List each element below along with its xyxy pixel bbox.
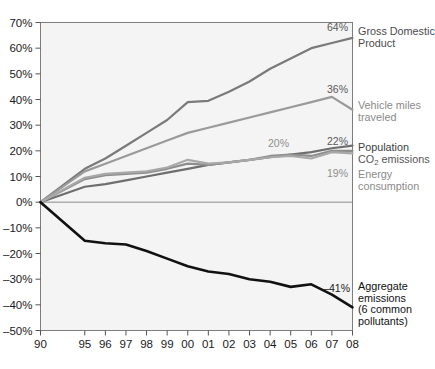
y-axis-label: –20% xyxy=(3,248,32,260)
x-axis-label: 07 xyxy=(326,338,339,350)
x-axis-label: 01 xyxy=(202,338,215,350)
y-axis-label: 30% xyxy=(9,119,32,131)
series-label-co2-subscript: 2 xyxy=(374,158,378,167)
series-label-energy-consumption: Energy consumption xyxy=(358,169,419,192)
x-axis-label: 08 xyxy=(346,338,359,350)
y-axis-label: 0% xyxy=(16,196,33,208)
series-label-vehicle-miles-line2: traveled xyxy=(358,112,421,124)
y-axis-label: –10% xyxy=(3,222,32,234)
x-axis-label: 90 xyxy=(34,338,47,350)
series-label-vehicle-miles: Vehicle miles traveled xyxy=(358,100,421,123)
series-label-vehicle-miles-line1: Vehicle miles xyxy=(358,100,421,112)
series-label-energy-line2: consumption xyxy=(358,181,419,193)
x-axis-label: 05 xyxy=(284,338,297,350)
y-axis-label: –50% xyxy=(3,325,32,337)
x-axis-label: 04 xyxy=(264,338,277,350)
series-label-energy-line1: Energy xyxy=(358,169,419,181)
series-end-value-5: –41% xyxy=(323,282,350,294)
series-label-co2-suffix: emissions xyxy=(379,153,430,165)
series-label-co2-prefix: CO xyxy=(358,153,374,165)
series-label-population: Population xyxy=(358,142,409,154)
x-axis-label: 95 xyxy=(78,338,91,350)
x-axis-label: 97 xyxy=(120,338,133,350)
series-label-aggregate-line4: pollutants) xyxy=(358,316,412,328)
x-axis-label: 96 xyxy=(99,338,112,350)
y-axis-label: 40% xyxy=(9,94,32,106)
series-label-co2-emissions: CO2 emissions xyxy=(358,154,430,167)
x-axis-label: 99 xyxy=(161,338,174,350)
x-axis-label: 98 xyxy=(140,338,153,350)
y-axis-label: –30% xyxy=(3,273,32,285)
y-axis-label: 20% xyxy=(9,145,32,157)
series-label-aggregate-line1: Aggregate xyxy=(358,281,412,293)
series-end-value-3: 20% xyxy=(268,137,289,149)
x-axis-label: 02 xyxy=(223,338,236,350)
series-label-population-line1: Population xyxy=(358,142,409,154)
y-axis-label: –40% xyxy=(3,299,32,311)
series-label-gdp: Gross Domestic Product xyxy=(358,26,435,49)
series-end-value-4: 19% xyxy=(327,167,348,179)
x-axis-label: 06 xyxy=(305,338,318,350)
x-axis-label: 03 xyxy=(243,338,256,350)
series-end-value-1: 36% xyxy=(327,83,348,95)
y-axis-label: 10% xyxy=(9,171,32,183)
y-axis-label: 60% xyxy=(9,42,32,54)
y-axis-label: 50% xyxy=(9,68,32,80)
series-label-gdp-line2: Product xyxy=(358,38,435,50)
series-end-value-0: 64% xyxy=(327,21,348,33)
series-end-value-2: 22% xyxy=(327,135,348,147)
y-axis-label: 70% xyxy=(9,17,32,29)
x-axis-label: 00 xyxy=(181,338,194,350)
series-label-aggregate-emissions: Aggregate emissions (6 common pollutants… xyxy=(358,281,412,327)
series-label-gdp-line1: Gross Domestic xyxy=(358,26,435,38)
